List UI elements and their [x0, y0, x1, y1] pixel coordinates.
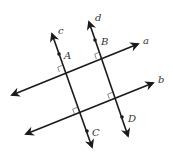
- line-a: [12, 44, 138, 95]
- point-label-D: D: [127, 113, 136, 124]
- point-B: [93, 38, 97, 42]
- point-label-A: A: [63, 50, 71, 61]
- line-b: [26, 83, 153, 134]
- point-A: [57, 52, 61, 56]
- line-label-d: d: [95, 12, 101, 23]
- parallel-perpendicular-lines-diagram: abcdABCD: [0, 0, 173, 157]
- line-label-b: b: [158, 74, 164, 85]
- right-angle-markers: [58, 52, 113, 114]
- labels-layer: abcdABCD: [58, 12, 164, 138]
- right-angle-marker-icon: [58, 65, 63, 72]
- point-label-B: B: [100, 36, 108, 47]
- line-label-a: a: [143, 35, 149, 46]
- point-label-C: C: [92, 127, 100, 138]
- point-D: [120, 115, 124, 119]
- point-C: [85, 129, 89, 133]
- right-angle-marker-icon: [108, 92, 113, 99]
- right-angle-marker-icon: [95, 52, 100, 59]
- lines-layer: [12, 22, 153, 147]
- line-label-c: c: [58, 25, 64, 36]
